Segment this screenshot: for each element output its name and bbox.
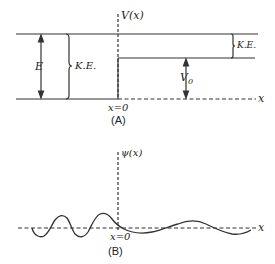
origin-label-b: x=0 xyxy=(110,231,130,242)
ke-left-label: K.E. xyxy=(75,60,96,71)
v-axis-label: V(x) xyxy=(121,9,144,22)
psi-axis-label: ψ(x) xyxy=(121,147,142,158)
x-axis-label-a: x xyxy=(258,92,264,105)
v0-label: V0 xyxy=(180,71,193,86)
energy-label: E xyxy=(35,60,43,73)
origin-label-a: x=0 xyxy=(108,102,128,113)
caption-b: (B) xyxy=(108,245,123,257)
caption-a: (A) xyxy=(111,114,126,126)
ke-left-brace xyxy=(66,34,72,99)
ke-right-label: K.E. xyxy=(237,40,256,50)
v0-symbol: V xyxy=(180,71,188,84)
v0-subscript: 0 xyxy=(188,77,193,86)
ke-right-brace xyxy=(231,34,235,58)
wavefunction-curve xyxy=(32,213,251,236)
diagram-canvas xyxy=(0,0,275,264)
x-axis-label-b: x xyxy=(258,221,264,234)
